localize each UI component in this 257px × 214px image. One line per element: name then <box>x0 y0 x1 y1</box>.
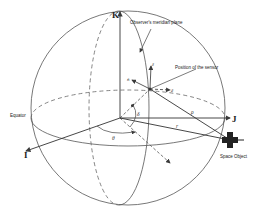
equator-front <box>31 118 225 146</box>
meridian-front <box>119 11 149 205</box>
k-axis-label: K <box>112 10 119 20</box>
meridian-leader-line <box>140 29 151 52</box>
space-object-label: Space Object <box>220 154 248 159</box>
theta-arc <box>97 126 135 133</box>
theta-symbol: θ <box>112 135 115 141</box>
n-hat-symbol: n̂ <box>127 77 130 82</box>
n-hat-vector <box>132 80 150 89</box>
space-object-icon <box>222 132 244 148</box>
sensor-position-label: Position of the sensor <box>175 65 219 70</box>
e-hat-vector <box>150 89 170 90</box>
equator-back <box>31 90 225 118</box>
i-axis <box>26 118 120 151</box>
sphere-outline <box>31 11 225 205</box>
sensor-leader-line <box>150 69 196 89</box>
rho-symbol: ρ <box>190 109 194 115</box>
delta-symbol: δ <box>137 111 140 117</box>
r-symbol: r <box>176 123 179 129</box>
i-axis-label: I <box>24 150 28 160</box>
equator-label: Equator <box>10 113 26 118</box>
j-axis-label: J <box>232 114 237 124</box>
meridian-plane-label: Observer's meridian plane <box>130 20 183 25</box>
e-hat-symbol: ê <box>171 88 174 93</box>
celestial-sphere-diagram: K J I Observer's meridian plane Position… <box>0 0 257 214</box>
z-hat-symbol: ẑ <box>151 62 154 67</box>
delta-arc <box>130 105 136 127</box>
sensor-direction-dashed <box>120 89 150 118</box>
z-hat-vector <box>150 66 151 89</box>
meridian-back <box>89 11 119 205</box>
